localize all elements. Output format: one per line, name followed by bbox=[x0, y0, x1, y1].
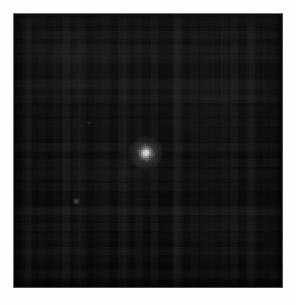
readout-streak bbox=[14, 199, 282, 200]
figure-root bbox=[0, 0, 296, 305]
background-mottling bbox=[14, 14, 282, 287]
astronomical-image-panel[interactable] bbox=[13, 13, 283, 288]
